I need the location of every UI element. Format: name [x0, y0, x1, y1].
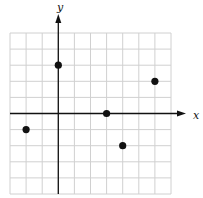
data-point: [119, 142, 126, 149]
x-axis-label: x: [193, 109, 200, 122]
data-point: [151, 78, 158, 85]
data-point: [103, 110, 110, 117]
data-point: [55, 62, 62, 69]
y-axis-label: y: [56, 1, 64, 14]
data-point: [23, 126, 30, 133]
coordinate-plane: x y: [0, 0, 203, 198]
x-axis-arrow-icon: [177, 111, 186, 117]
y-axis-arrow-icon: [55, 14, 61, 23]
